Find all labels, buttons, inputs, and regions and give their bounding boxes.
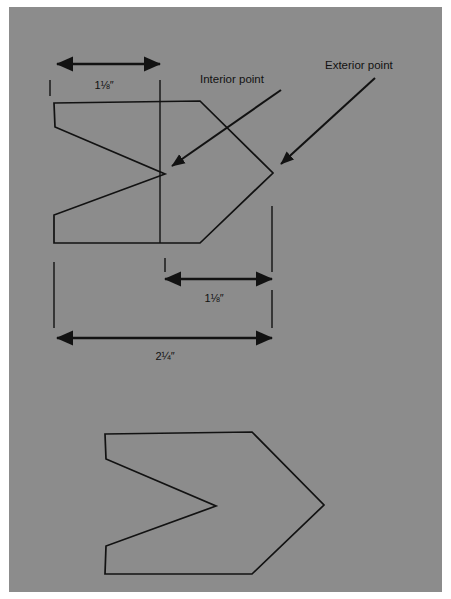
diagram-canvas: 1⅛″1⅛″2¼″ Interior pointExterior point	[0, 0, 451, 599]
interior-point-label: Interior point	[200, 73, 265, 85]
middle-width-dimension-label: 1⅛″	[204, 292, 223, 304]
figure-root: 1⅛″1⅛″2¼″ Interior pointExterior point	[0, 0, 451, 599]
overall-width-dimension-label: 2¼″	[155, 350, 174, 362]
diagram-plate	[9, 7, 442, 592]
top-width-dimension-label: 1⅛″	[94, 79, 113, 91]
exterior-point-label: Exterior point	[325, 59, 394, 71]
